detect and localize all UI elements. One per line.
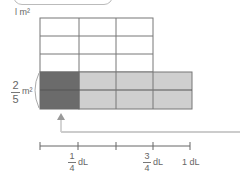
tick-denominator: 4 [69,164,74,173]
area-grid [0,0,240,193]
fraction-denominator: 5 [12,94,18,105]
tick-label-1dl: 1 dL [182,157,200,167]
fraction-numerator: 2 [12,80,18,91]
tick-label-1-4: 1 4 [68,152,76,173]
fraction-area-unit: m² [22,86,33,96]
tick-numerator: 1 [69,152,74,161]
fraction-area-label: 2 5 [11,80,20,105]
tick-unit: dL [78,157,88,167]
tick-label-3-4: 3 4 [143,152,151,173]
tick-numerator: 3 [144,152,149,161]
tick-unit: dL [153,157,163,167]
tick-denominator: 4 [144,164,149,173]
